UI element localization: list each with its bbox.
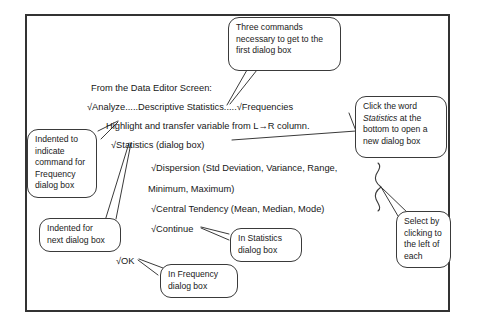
body-line-statistics: √Statistics (dialog box): [111, 140, 204, 151]
callout-in-statistics-line-2: dialog box: [238, 245, 295, 257]
callout-three-commands-line-2: necessary to get to the: [236, 34, 334, 46]
callout-click-the-word-emphasis: Statistics: [363, 113, 397, 123]
callout-click-the-word-line-3: bottom to open a: [363, 124, 440, 136]
callout-indented-frequency-line-5: dialog box: [35, 180, 90, 192]
body-line-central: √Central Tendency (Mean, Median, Mode): [151, 204, 324, 215]
callout-indented-frequency-line-2: indicate: [35, 146, 90, 158]
body-line-intro: From the Data Editor Screen:: [91, 83, 212, 94]
callout-indented-frequency-line-3: command for: [35, 157, 90, 169]
body-line-highlight: Highlight and transfer variable from L→R…: [106, 121, 310, 132]
body-line-dispersion: √Dispersion (Std Deviation, Variance, Ra…: [151, 163, 337, 174]
callout-click-the-word-line-4: new dialog box: [363, 136, 440, 148]
body-line-commands: √Analyze.....Descriptive Statistics.....…: [87, 102, 293, 113]
body-line-ok: √OK: [116, 256, 135, 267]
callout-three-commands: Three commands necessary to get to the f…: [228, 17, 341, 71]
figure-canvas: From the Data Editor Screen: √Analyze...…: [0, 0, 479, 332]
callout-three-commands-line-1: Three commands: [236, 22, 334, 34]
body-line-minmax: Minimum, Maximum): [148, 184, 234, 195]
callout-click-the-word-line-2: Statistics at the: [363, 113, 440, 125]
body-line-continue: √Continue: [151, 224, 193, 235]
callout-indented-next: Indented for next dialog box: [39, 218, 121, 252]
callout-click-the-word-emphasis-suffix: at the: [397, 113, 421, 123]
callout-indented-frequency: Indented to indicate command for Frequen…: [27, 129, 97, 198]
callout-select-by-clicking-line-4: each: [404, 251, 444, 263]
callout-select-by-clicking-line-1: Select by: [404, 216, 444, 228]
callout-click-the-word: Click the word Statistics at the bottom …: [355, 96, 447, 158]
callout-in-statistics: In Statistics dialog box: [230, 228, 302, 262]
callout-in-statistics-line-1: In Statistics: [238, 233, 295, 245]
callout-indented-frequency-line-1: Indented to: [35, 134, 90, 146]
callout-select-by-clicking-line-2: clicking to: [404, 228, 444, 240]
callout-indented-next-line-1: Indented for: [47, 223, 114, 235]
callout-select-by-clicking: Select by clicking to the left of each: [396, 211, 451, 268]
callout-click-the-word-line-1: Click the word: [363, 101, 440, 113]
callout-in-frequency-line-2: dialog box: [168, 281, 231, 293]
callout-three-commands-line-3: first dialog box: [236, 45, 334, 57]
callout-in-frequency-line-1: In Frequency: [168, 269, 231, 281]
callout-indented-frequency-line-4: Frequency: [35, 169, 90, 181]
callout-select-by-clicking-line-3: the left of: [404, 239, 444, 251]
callout-indented-next-line-2: next dialog box: [47, 235, 114, 247]
callout-in-frequency: In Frequency dialog box: [160, 264, 238, 298]
